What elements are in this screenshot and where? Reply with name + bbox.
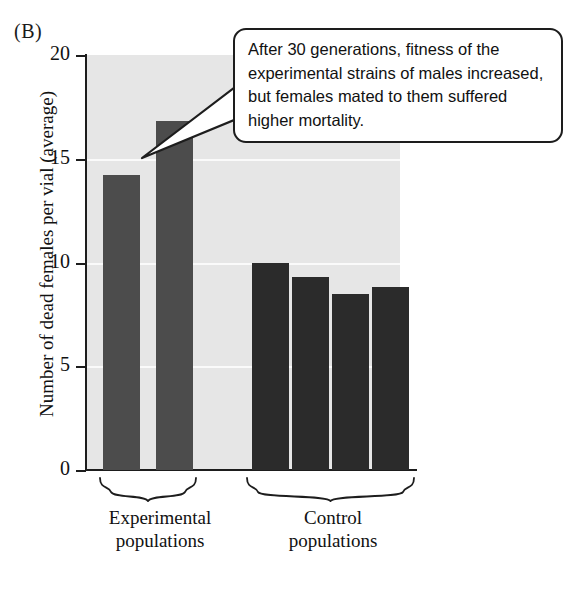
y-tick-label: 15 — [24, 146, 70, 169]
group-label-experimental-line2: populations — [70, 529, 250, 552]
bracket-experimental — [94, 476, 202, 502]
y-tick-mark — [76, 470, 86, 472]
callout-text: After 30 generations, fitness of the exp… — [248, 38, 548, 132]
y-tick-label: 5 — [24, 353, 70, 376]
bar — [156, 121, 193, 470]
y-tick-mark — [76, 263, 86, 265]
y-tick-label: 0 — [24, 457, 70, 480]
figure-panel-b: (B) Number of dead females per vial (ave… — [0, 0, 582, 589]
group-label-control: Control populations — [243, 506, 423, 552]
bar — [252, 263, 289, 471]
y-tick-mark — [76, 159, 86, 161]
y-tick-label: 10 — [24, 250, 70, 273]
group-label-experimental: Experimental populations — [70, 506, 250, 552]
bar — [103, 175, 140, 470]
y-tick-mark — [76, 55, 86, 57]
bracket-control — [241, 476, 420, 502]
group-label-control-line2: populations — [243, 529, 423, 552]
group-label-control-line1: Control — [243, 506, 423, 529]
gridline — [86, 159, 400, 161]
bar — [292, 277, 329, 470]
bar — [372, 287, 409, 470]
group-label-experimental-line1: Experimental — [70, 506, 250, 529]
y-tick-mark — [76, 366, 86, 368]
bar — [332, 294, 369, 470]
callout-box: After 30 generations, fitness of the exp… — [233, 28, 563, 143]
y-tick-label: 20 — [24, 42, 70, 65]
